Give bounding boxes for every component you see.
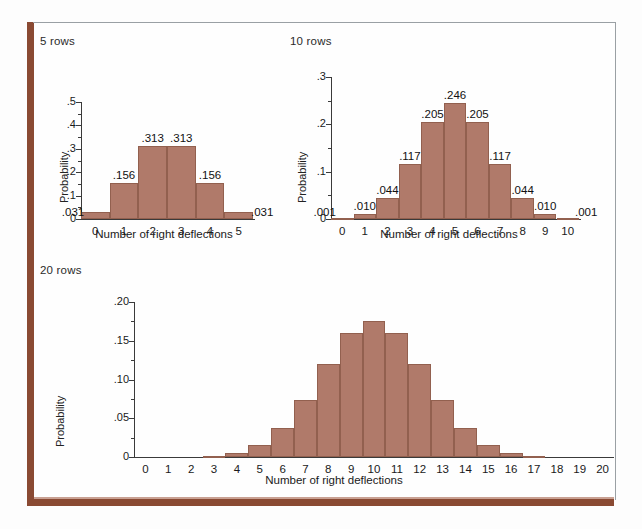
histogram-bar: [385, 333, 408, 457]
y-tick-minor: [131, 438, 135, 439]
y-tick-minor: [131, 360, 135, 361]
histogram-bar: [557, 218, 580, 220]
x-tick-label: 3: [165, 225, 197, 237]
bar-value-label: .117: [476, 150, 524, 162]
bar-value-label: .117: [386, 150, 434, 162]
histogram-bar: [408, 364, 431, 457]
y-tick-label: .10: [100, 373, 129, 385]
histogram-bar: [271, 428, 294, 457]
y-tick-minor: [78, 161, 82, 162]
y-tick-label: .15: [100, 334, 129, 346]
y-tick-label: .3: [47, 142, 76, 154]
histogram-bar: [138, 146, 167, 219]
histogram-bar: [454, 428, 477, 457]
histogram-bar: [110, 183, 139, 220]
y-tick-major: [129, 380, 135, 381]
bar-value-label: .313: [157, 132, 205, 144]
bar-value-label: .156: [186, 169, 234, 181]
page-border-bottom-shadow: [34, 497, 614, 499]
histogram-bar: [294, 400, 317, 457]
y-tick-major: [76, 149, 82, 150]
page-border-right: [615, 22, 616, 500]
page-border-bottom: [27, 499, 614, 506]
y-tick-major: [326, 172, 332, 173]
bar-value-label: .031: [49, 206, 97, 218]
y-tick-major: [326, 77, 332, 78]
x-axis-label-20-rows: Number of right deflections: [174, 474, 494, 486]
y-tick-label: .05: [100, 411, 129, 423]
x-tick-label: 20: [587, 463, 619, 475]
y-tick-label: .3: [297, 70, 326, 82]
chart-title-5-rows: 5 rows: [40, 35, 75, 47]
bar-value-label: .205: [454, 108, 502, 120]
bar-value-label: .031: [238, 206, 286, 218]
y-tick-minor: [328, 148, 332, 149]
histogram-bar: [421, 122, 444, 219]
histogram-bar: [317, 364, 340, 457]
x-axis-line: [81, 219, 255, 220]
y-tick-major: [76, 196, 82, 197]
figure-page: 5 rows Probability Number of right defle…: [0, 0, 642, 529]
chart-5-rows: 5 rows Probability Number of right defle…: [34, 23, 284, 258]
bar-value-label: .246: [431, 89, 479, 101]
histogram-bar: [203, 456, 226, 458]
bar-value-label: .044: [363, 184, 411, 196]
y-axis-label-20-rows: Probability: [54, 396, 66, 447]
y-tick-minor: [131, 321, 135, 322]
chart-title-10-rows: 10 rows: [290, 35, 332, 47]
histogram-bar: [477, 445, 500, 457]
x-tick-label: 10: [552, 225, 584, 237]
y-tick-minor: [78, 114, 82, 115]
y-tick-minor: [131, 399, 135, 400]
histogram-bar: [167, 146, 196, 219]
histogram-bar: [534, 214, 557, 219]
bar-value-label: .001: [562, 206, 610, 218]
histogram-bar: [248, 445, 271, 457]
x-tick-label: 0: [79, 225, 111, 237]
chart-20-rows: 20 rows Probability Number of right defl…: [34, 252, 615, 497]
y-tick-minor: [328, 101, 332, 102]
histogram-bar: [196, 183, 225, 220]
histogram-bar: [466, 122, 489, 219]
y-tick-major: [326, 124, 332, 125]
y-tick-label: .2: [297, 117, 326, 129]
y-tick-major: [76, 172, 82, 173]
y-tick-label: 0: [100, 450, 129, 462]
bar-value-label: .010: [341, 200, 389, 212]
histogram-bar: [331, 218, 354, 220]
y-tick-minor: [78, 137, 82, 138]
chart-title-20-rows: 20 rows: [40, 264, 82, 276]
y-tick-minor: [78, 184, 82, 185]
y-tick-label: .5: [47, 95, 76, 107]
y-tick-major: [129, 302, 135, 303]
y-tick-major: [76, 219, 82, 220]
y-axis-label-10-rows: Probability: [296, 152, 308, 203]
histogram-bar: [340, 333, 363, 457]
x-tick-label: 2: [137, 225, 169, 237]
y-tick-label: .2: [47, 165, 76, 177]
histogram-bar: [431, 400, 454, 457]
x-axis-line: [331, 219, 581, 220]
bar-value-label: .205: [409, 108, 457, 120]
y-tick-major: [129, 418, 135, 419]
x-tick-label: 4: [194, 225, 226, 237]
histogram-bar: [444, 103, 467, 219]
y-tick-minor: [328, 195, 332, 196]
x-tick-label: 1: [108, 225, 140, 237]
bar-value-label: .156: [100, 169, 148, 181]
bar-value-label: .044: [499, 184, 547, 196]
y-tick-major: [76, 102, 82, 103]
page-border-left: [27, 22, 34, 506]
histogram-bar: [225, 453, 248, 457]
y-tick-major: [129, 457, 135, 458]
x-tick-label: 5: [223, 225, 255, 237]
y-tick-label: .4: [47, 118, 76, 130]
histogram-bar: [500, 453, 523, 457]
y-tick-major: [76, 125, 82, 126]
histogram-bar: [354, 214, 377, 219]
histogram-bar: [363, 321, 386, 457]
y-tick-label: .20: [100, 295, 129, 307]
y-tick-major: [129, 341, 135, 342]
y-tick-label: .1: [297, 165, 326, 177]
chart-10-rows: 10 rows Probability Number of right defl…: [284, 23, 615, 258]
